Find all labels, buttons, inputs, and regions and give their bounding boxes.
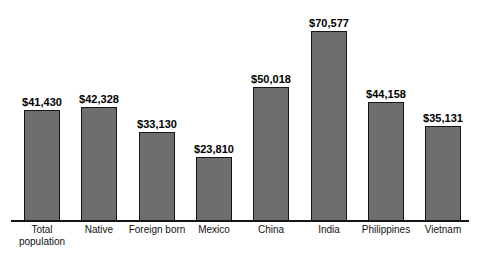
- bar-group: $42,328: [81, 107, 117, 221]
- bar-group: $70,577: [311, 31, 347, 221]
- tick-label-line-1: China: [258, 224, 284, 235]
- bar-rect[interactable]: [368, 102, 404, 221]
- bar-group: $35,131: [425, 126, 461, 221]
- tick-label-line-1: Native: [85, 224, 113, 235]
- bar-value-label: $35,131: [423, 112, 463, 124]
- x-axis-tick-labels: Total population Native Foreign born Mex…: [0, 224, 480, 266]
- bar-rect[interactable]: [139, 132, 175, 221]
- bar-value-label: $33,130: [137, 118, 177, 130]
- x-tick-label-native: Native: [67, 224, 131, 236]
- bar-rect[interactable]: [81, 107, 117, 221]
- bar-value-label: $23,810: [194, 143, 234, 155]
- tick-label-line-1: Mexico: [198, 224, 230, 235]
- tick-label-line-2: population: [10, 236, 74, 248]
- x-tick-label-india: India: [297, 224, 361, 236]
- x-tick-label-total-population: Total population: [10, 224, 74, 248]
- bar-value-label: $44,158: [366, 88, 406, 100]
- x-tick-label-philippines: Philippines: [354, 224, 418, 236]
- tick-label-line-1: Philippines: [362, 224, 410, 235]
- bar-value-label: $42,328: [79, 93, 119, 105]
- x-tick-label-foreign-born: Foreign born: [125, 224, 189, 236]
- tick-label-line-1: Vietnam: [425, 224, 462, 235]
- bar-value-label: $70,577: [309, 17, 349, 29]
- x-tick-label-china: China: [239, 224, 303, 236]
- x-axis-line: [11, 220, 469, 222]
- x-tick-label-vietnam: Vietnam: [411, 224, 475, 236]
- bar-rect[interactable]: [311, 31, 347, 221]
- bar-rect[interactable]: [425, 126, 461, 221]
- tick-label-line-1: Foreign born: [129, 224, 186, 235]
- bar-group: $50,018: [253, 87, 289, 221]
- bar-rect[interactable]: [253, 87, 289, 221]
- tick-label-line-1: Total: [31, 224, 52, 235]
- bar-group: $33,130: [139, 132, 175, 221]
- bar-group: $44,158: [368, 102, 404, 221]
- tick-label-line-1: India: [318, 224, 340, 235]
- plot-area: $41,430 $42,328 $33,130 $23,810 $50,018 …: [0, 0, 480, 221]
- bar-group: $23,810: [196, 157, 232, 221]
- bar-group: $41,430: [24, 110, 60, 221]
- bar-value-label: $41,430: [22, 96, 62, 108]
- bar-chart: $41,430 $42,328 $33,130 $23,810 $50,018 …: [0, 0, 480, 266]
- x-tick-label-mexico: Mexico: [182, 224, 246, 236]
- bar-value-label: $50,018: [251, 73, 291, 85]
- bar-rect[interactable]: [196, 157, 232, 221]
- bar-rect[interactable]: [24, 110, 60, 221]
